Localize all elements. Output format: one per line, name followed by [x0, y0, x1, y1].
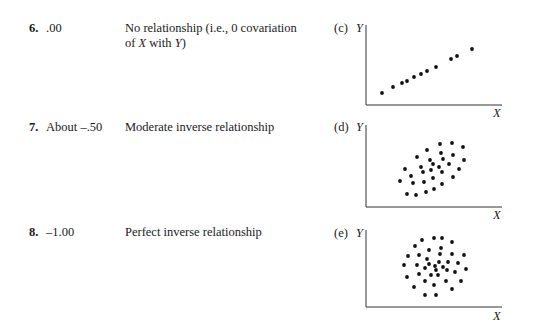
plot-d-points: [398, 141, 466, 197]
data-point: [417, 272, 421, 276]
data-point: [398, 179, 402, 183]
data-point: [405, 192, 409, 196]
data-point: [450, 240, 454, 244]
data-point: [406, 254, 410, 258]
data-point: [403, 167, 407, 171]
data-point: [432, 187, 436, 191]
data-point: [447, 162, 451, 166]
data-point: [429, 273, 433, 277]
data-point: [438, 142, 442, 146]
data-point: [450, 287, 454, 291]
data-point: [450, 252, 454, 256]
data-point: [405, 79, 409, 83]
data-point: [449, 57, 453, 61]
plot-c-axes: [366, 25, 502, 105]
data-point: [423, 266, 427, 270]
data-point: [441, 265, 445, 269]
data-point: [450, 141, 454, 145]
data-point: [405, 275, 409, 279]
data-point: [444, 279, 448, 283]
data-point: [462, 253, 466, 257]
data-point: [419, 72, 423, 76]
data-point: [459, 279, 463, 283]
plot-c-points: [380, 47, 474, 95]
data-point: [461, 145, 465, 149]
data-point: [423, 279, 427, 283]
data-point: [412, 75, 416, 79]
data-point: [422, 180, 426, 184]
data-point: [415, 155, 419, 159]
data-point: [413, 244, 417, 248]
plot-e-points: [402, 236, 468, 297]
data-point: [429, 168, 433, 172]
data-point: [464, 267, 468, 271]
data-point: [434, 65, 438, 69]
data-point: [431, 176, 435, 180]
data-point: [445, 268, 449, 272]
scatter-plots: [0, 0, 534, 325]
data-point: [462, 158, 466, 162]
data-point: [453, 270, 457, 274]
data-point: [427, 248, 431, 252]
data-point: [433, 264, 437, 268]
data-point: [421, 170, 425, 174]
data-point: [425, 69, 429, 73]
data-point: [424, 190, 428, 194]
data-point: [438, 252, 442, 256]
data-point: [391, 85, 395, 89]
data-point: [414, 193, 418, 197]
data-point: [451, 153, 455, 157]
data-point: [428, 158, 432, 162]
data-point: [400, 81, 404, 85]
data-point: [434, 268, 438, 272]
data-point: [440, 182, 444, 186]
data-point: [432, 236, 436, 240]
data-point: [457, 167, 461, 171]
data-point: [470, 47, 474, 51]
data-point: [427, 262, 431, 266]
data-point: [431, 162, 435, 166]
data-point: [436, 273, 440, 277]
data-point: [425, 257, 429, 261]
data-point: [439, 246, 443, 250]
data-point: [419, 165, 423, 169]
data-point: [441, 157, 445, 161]
data-point: [402, 263, 406, 267]
data-point: [380, 91, 384, 95]
data-point: [432, 283, 436, 287]
data-point: [412, 285, 416, 289]
data-point: [409, 174, 413, 178]
data-point: [423, 293, 427, 297]
data-point: [440, 170, 444, 174]
data-point: [434, 293, 438, 297]
data-point: [455, 54, 459, 58]
data-point: [425, 148, 429, 152]
data-point: [440, 236, 444, 240]
data-point: [446, 260, 450, 264]
data-point: [437, 260, 441, 264]
data-point: [417, 253, 421, 257]
data-point: [439, 151, 443, 155]
data-point: [411, 181, 415, 185]
data-point: [451, 175, 455, 179]
plot-d-axes: [366, 125, 502, 207]
data-point: [456, 261, 460, 265]
plot-e-axes: [366, 230, 502, 307]
data-point: [420, 238, 424, 242]
data-point: [437, 165, 441, 169]
data-point: [415, 263, 419, 267]
